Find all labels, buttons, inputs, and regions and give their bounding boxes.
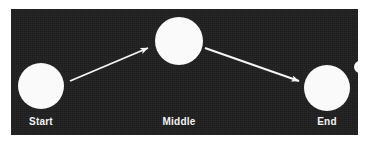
diagram-stage: Start Middle End bbox=[0, 0, 369, 142]
node-label-end: End bbox=[317, 116, 337, 127]
node-end[interactable] bbox=[304, 65, 350, 111]
node-ghost-right bbox=[354, 61, 358, 73]
edge-start-to-middle bbox=[70, 48, 148, 81]
diagram-panel: Start Middle End bbox=[11, 9, 358, 135]
node-middle[interactable] bbox=[155, 17, 203, 65]
node-label-middle: Middle bbox=[163, 116, 196, 127]
edge-middle-to-end bbox=[205, 48, 299, 81]
node-start[interactable] bbox=[18, 63, 64, 109]
node-label-start: Start bbox=[29, 116, 53, 127]
